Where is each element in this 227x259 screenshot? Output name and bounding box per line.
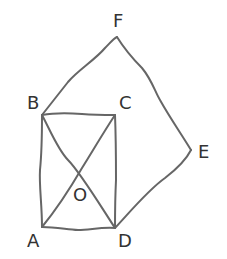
segment-CD: [115, 115, 116, 228]
label-E: E: [198, 141, 209, 162]
segment-BF: [42, 37, 117, 115]
label-A: A: [27, 230, 40, 251]
label-O: O: [73, 184, 87, 205]
segment-DA: [42, 227, 115, 230]
label-B: B: [27, 92, 39, 113]
label-C: C: [119, 92, 132, 113]
geometry-diagram: F B C E A D O: [0, 0, 227, 259]
label-D: D: [118, 230, 132, 251]
segment-ED: [115, 150, 191, 228]
diagram-svg: F B C E A D O: [0, 0, 227, 259]
segment-BC: [42, 113, 115, 115]
label-F: F: [113, 10, 123, 31]
segment-AB: [40, 115, 42, 227]
